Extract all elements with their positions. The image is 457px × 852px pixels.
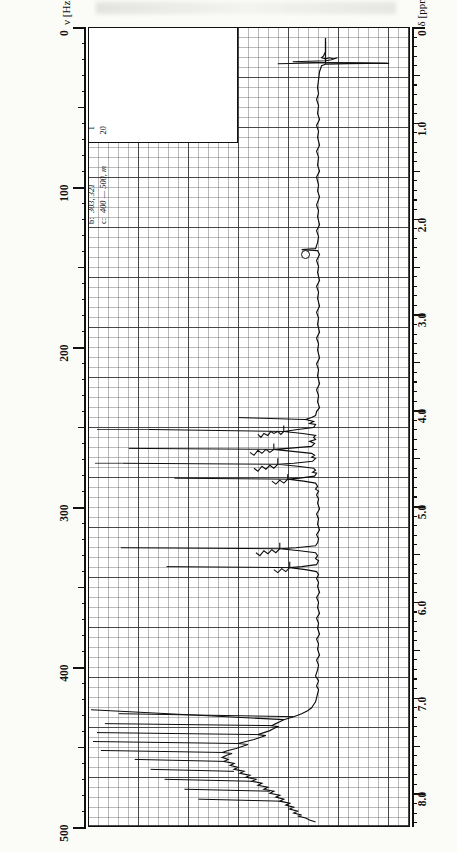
axis-ppm-tick-minor	[412, 171, 420, 172]
shift-key-c: c:	[98, 213, 110, 224]
axis-ppm-tick-minor	[412, 439, 417, 440]
axis-ppm-tick-minor	[412, 755, 417, 756]
axis-ppm-tick-minor	[412, 276, 417, 277]
axis-ppm-tick-minor	[412, 726, 417, 727]
axis-ppm-tick-minor	[412, 372, 417, 373]
axis-ppm-tick-minor	[412, 238, 417, 239]
axis-hz-tick-minor	[78, 427, 86, 428]
axis-hz-tick-minor	[82, 299, 87, 300]
axis-ppm-tick-minor	[412, 286, 417, 287]
axis-ppm-tick-minor	[412, 487, 417, 488]
axis-hz-tick-major	[73, 507, 86, 509]
shift-row-c: c: 400 — 500, m 20	[98, 126, 110, 224]
axis-hz-tick-minor	[82, 459, 87, 460]
axis-hz-tick-minor	[78, 747, 86, 748]
axis-hz-tick-label: 0	[58, 30, 70, 36]
axis-hz-tick-minor	[82, 91, 87, 92]
axis-hz-tick-minor	[82, 555, 87, 556]
axis-ppm-tick-minor	[412, 37, 417, 38]
axis-hz-tick-minor	[82, 443, 87, 444]
axis-hz-tick-minor	[82, 363, 87, 364]
axis-ppm-tick-major	[412, 27, 425, 29]
shift-key-b: b:	[88, 213, 98, 224]
axis-hz-tick-minor	[82, 811, 87, 812]
axis-hz-title: ν [Hz]	[60, 0, 72, 25]
axis-hz-tick-major	[73, 827, 86, 829]
axis-hz-tick-minor	[82, 539, 87, 540]
axis-ppm-tick-minor	[412, 46, 417, 47]
axis-hz-tick-minor	[82, 155, 87, 156]
axis-hz-tick-label: 300	[58, 504, 70, 521]
axis-ppm-tick-minor	[412, 142, 417, 143]
axis-ppm-tick-minor	[412, 688, 417, 689]
axis-ppm-tick-minor	[412, 813, 417, 814]
axis-ppm-tick-minor	[412, 362, 420, 363]
axis-ppm-tick-label: 7.0	[416, 696, 428, 710]
axis-ppm-tick-minor	[412, 458, 420, 459]
axis-ppm-tick-label: 4.0	[416, 409, 428, 423]
axis-ppm-tick-minor	[412, 631, 417, 632]
axis-ppm-tick-minor	[412, 640, 417, 641]
axis-hz-tick-minor	[82, 123, 87, 124]
axis-ppm-tick-minor	[412, 592, 417, 593]
axis-frequency-hz: ν [Hz] 0100200300400500	[66, 27, 86, 827]
axis-hz-tick-minor	[78, 267, 86, 268]
axis-ppm-tick-minor	[412, 544, 417, 545]
axis-ppm-tick-label: 5.0	[416, 505, 428, 519]
axis-hz-tick-minor	[82, 731, 87, 732]
axis-ppm-tick-minor	[412, 477, 417, 478]
axis-hz-tick-minor	[82, 491, 87, 492]
axis-ppm-tick-minor	[412, 659, 417, 660]
axis-hz-tick-minor	[82, 379, 87, 380]
axis-hz-tick-minor	[82, 139, 87, 140]
axis-ppm-tick-minor	[412, 56, 417, 57]
axis-ppm-tick-minor	[412, 784, 417, 785]
annotation-card: V 51 / 1 Solvent: CDCl3 a: 209, (226), 2…	[88, 28, 238, 143]
axis-hz-tick-minor	[82, 699, 87, 700]
axis-ppm-tick-minor	[412, 152, 417, 153]
axis-hz-tick-minor	[82, 395, 87, 396]
axis-ppm-tick-minor	[412, 257, 417, 258]
axis-ppm-tick-minor	[412, 391, 417, 392]
axis-ppm-tick-minor	[412, 305, 417, 306]
axis-ppm-tick-minor	[412, 765, 417, 766]
axis-hz-tick-minor	[82, 331, 87, 332]
axis-ppm-tick-minor	[412, 621, 417, 622]
axis-ppm-tick-minor	[412, 209, 417, 210]
axis-ppm-tick-minor	[412, 353, 417, 354]
axis-ppm-tick-minor	[412, 429, 417, 430]
axis-ppm-tick-minor	[412, 746, 420, 747]
axis-ppm-tick-minor	[412, 161, 417, 162]
axis-ppm-tick-minor	[412, 822, 417, 823]
axis-hz-tick-minor	[82, 411, 87, 412]
axis-hz-tick-minor	[82, 571, 87, 572]
axis-hz-tick-label: 100	[58, 184, 70, 201]
axis-hz-tick-minor	[82, 523, 87, 524]
scan-artifact	[96, 2, 396, 14]
axis-hz-tick-minor	[82, 683, 87, 684]
axis-ppm-tick-minor	[412, 75, 420, 76]
axis-ppm-tick-minor	[412, 94, 417, 95]
spectrum-plot-area: V 51 / 1 Solvent: CDCl3 a: 209, (226), 2…	[88, 27, 410, 827]
axis-hz-tick-minor	[82, 203, 87, 204]
axis-hz-tick-minor	[82, 219, 87, 220]
axis-hz-tick-minor	[78, 107, 86, 108]
axis-ppm-tick-minor	[412, 650, 420, 651]
axis-ppm-tick-minor	[412, 381, 417, 382]
axis-hz-tick-major	[73, 27, 86, 29]
axis-ppm-tick-minor	[412, 525, 417, 526]
axis-hz-tick-major	[73, 347, 86, 349]
axis-ppm-tick-minor	[412, 104, 417, 105]
nmr-figure-page: ν [Hz] 0100200300400500	[0, 0, 457, 852]
shift-row-b: b: 303, 321 1	[88, 126, 98, 224]
axis-ppm-tick-minor	[412, 65, 417, 66]
axis-hz-tick-minor	[82, 763, 87, 764]
axis-ppm-tick-minor	[412, 496, 417, 497]
shift-values-b: 303, 321	[88, 143, 98, 213]
integral-c: 20	[98, 126, 110, 143]
axis-hz-tick-minor	[82, 75, 87, 76]
shift-values-c: 400 — 500, m	[98, 143, 110, 213]
axis-ppm-tick-minor	[412, 247, 417, 248]
axis-ppm-tick-label: 3.0	[416, 313, 428, 327]
axis-ppm-tick-minor	[412, 113, 417, 114]
